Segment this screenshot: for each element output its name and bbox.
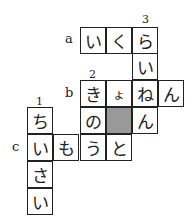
cell-shaded [106,107,132,134]
row-label-c: c [12,139,19,154]
cell-a2[interactable]: く [106,27,132,54]
cell-f1[interactable]: い [27,188,53,215]
cell-a3[interactable]: ら [132,27,158,54]
cell-d1[interactable]: ち [27,107,53,134]
clue-number-3: 3 [142,13,149,26]
cell-b2[interactable]: ょ [106,80,132,107]
cell-d2[interactable]: の [80,107,106,134]
cell-c3[interactable]: う [80,134,106,161]
cell-c4[interactable]: と [106,134,132,161]
cell-b3[interactable]: ね [132,80,158,107]
cell-a1[interactable]: い [80,27,106,54]
row-label-b: b [65,85,73,100]
cell-b1[interactable]: き [80,80,106,107]
row-label-a: a [65,31,73,46]
cell-b4[interactable]: ん [158,80,184,107]
cell-c1[interactable]: い [27,134,53,161]
cell-e1[interactable]: さ [27,161,53,188]
cell-d4[interactable]: ん [132,107,158,134]
cell-c2[interactable]: も [53,134,79,161]
cell-r1[interactable]: い [132,53,158,80]
